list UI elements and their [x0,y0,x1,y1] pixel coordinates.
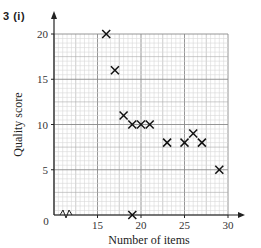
y-tick-label: 15 [37,73,49,85]
axis-break-icon [60,210,72,218]
y-tick-label: 5 [43,164,49,176]
y-tick-label: 10 [37,119,49,131]
x-axis-title: Number of items [108,233,190,247]
scatter-chart: 5101520015202530Number of itemsQuality s… [0,0,261,248]
y-tick-label: 20 [37,28,49,40]
y-axis-title: Quality score [11,92,25,156]
x-tick-label: 15 [92,219,104,231]
x-tick-label: 30 [223,219,235,231]
x-tick-label: 25 [179,219,191,231]
x-tick-label: 0 [43,215,49,227]
x-tick-label: 20 [136,219,148,231]
